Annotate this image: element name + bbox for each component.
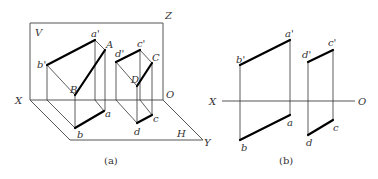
label-D: D <box>130 74 139 85</box>
line-cd-b <box>308 120 333 135</box>
label-b-a: b <box>77 129 83 140</box>
line-cd <box>137 115 152 123</box>
label-b-prime-b: b' <box>236 54 245 65</box>
label-z-axis: Z <box>164 10 173 21</box>
line-ab <box>75 111 104 128</box>
projection-diagram: V Z X O H Y a' b' A B a b c' d' C D c d … <box>0 0 378 179</box>
label-d-prime-a: d' <box>115 48 124 59</box>
line-CD <box>137 63 152 86</box>
figure-b: X O a' b' a b c' d' c d (b) <box>208 28 366 166</box>
label-B: B <box>69 84 77 95</box>
label-a-prime-b: a' <box>285 28 294 39</box>
label-c-prime-b: c' <box>328 37 336 48</box>
label-a-a: a <box>105 108 111 119</box>
label-y-axis: Y <box>204 137 212 148</box>
label-v-plane: V <box>35 27 44 38</box>
label-c-a: c <box>153 113 159 124</box>
label-c-prime-a: c' <box>137 38 145 49</box>
label-b-prime-a: b' <box>37 59 46 70</box>
line-c-prime-d-prime-b <box>308 50 333 62</box>
caption-a: (a) <box>104 155 118 166</box>
label-d-a: d <box>134 126 140 137</box>
label-h-plane: H <box>176 128 186 139</box>
label-a-b: a <box>287 117 293 128</box>
label-x-axis-b: X <box>208 96 217 107</box>
label-d-prime-b: d' <box>302 49 311 60</box>
label-o-a: O <box>166 89 174 100</box>
caption-b: (b) <box>279 155 293 166</box>
line-a-prime-b-prime <box>47 40 95 65</box>
label-a-prime-a: a' <box>91 28 100 39</box>
label-d-b: d <box>306 137 312 148</box>
label-b-b: b <box>241 142 247 153</box>
figure-a: V Z X O H Y a' b' A B a b c' d' C D c d … <box>14 10 212 166</box>
label-c-b: c <box>333 122 339 133</box>
label-C: C <box>152 52 160 63</box>
line-ab-b <box>240 115 290 140</box>
label-o-b: O <box>358 96 366 107</box>
label-x-axis-a: X <box>14 95 23 106</box>
line-AB <box>75 50 105 95</box>
label-A: A <box>105 39 113 50</box>
line-a-prime-b-prime-b <box>240 40 290 65</box>
